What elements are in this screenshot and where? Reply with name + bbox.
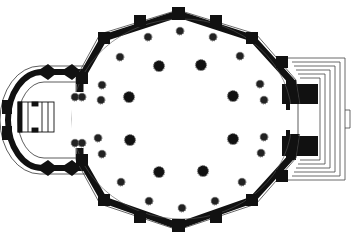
wall-piers	[76, 7, 288, 232]
altar	[18, 102, 54, 132]
floor-plan-drawing	[0, 0, 357, 234]
outer-columns	[71, 27, 268, 212]
floor-plan	[0, 0, 357, 234]
octagon-wall	[80, 14, 298, 226]
inner-columns	[124, 60, 239, 178]
